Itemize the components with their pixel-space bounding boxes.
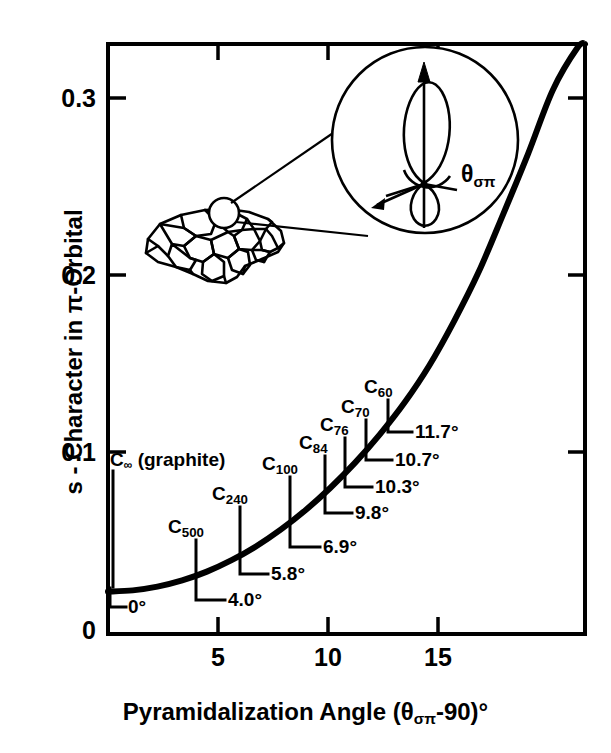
cage-facet-11: [228, 249, 250, 274]
c70-c: C: [341, 396, 355, 417]
y-axis-title-pre: s - Character in: [60, 313, 87, 494]
c500-subscript: 500: [182, 525, 204, 540]
xtick-label-15: 15: [408, 645, 468, 670]
ytick-label-0.3: 0.3: [28, 86, 96, 111]
angle-label-0deg: 0°: [128, 597, 146, 616]
theta-inset-subscript: σπ: [473, 173, 495, 190]
c60-subscript: 60: [378, 385, 393, 400]
y-axis-title-post: -Orbital: [60, 209, 87, 294]
angle-label-9.8deg: 9.8°: [355, 503, 389, 522]
label-c60: C60: [364, 377, 393, 399]
label-c70: C70: [341, 397, 370, 419]
xtick-label-5: 5: [188, 645, 248, 670]
pi-orbital-inset: [332, 47, 518, 233]
theta-inset-symbol: θ: [461, 161, 473, 187]
angle-label-10.7deg: 10.7°: [395, 450, 440, 469]
label-c100: C100: [262, 454, 298, 476]
ytick-label-0: 0: [28, 618, 96, 643]
carbon-center-dot: [421, 181, 428, 188]
graphite-rest: (graphite): [132, 449, 225, 470]
c76-subscript: 76: [334, 423, 349, 438]
graphite-c: C: [110, 449, 124, 470]
c60-c: C: [364, 376, 378, 397]
angle-label-6.9deg: 6.9°: [323, 537, 357, 556]
angle-label-5.8deg: 5.8°: [271, 564, 305, 583]
theta-sigma-pi-label: θσπ: [461, 163, 495, 189]
angle-label-4.0deg: 4.0°: [228, 590, 262, 609]
y-axis-title-pi: π: [60, 295, 87, 313]
c76-c: C: [320, 414, 334, 435]
c84-subscript: 84: [313, 441, 328, 456]
label-c-infinity-graphite: C∞ (graphite): [110, 450, 225, 472]
cage-facet-4: [160, 224, 196, 246]
xtick-label-10: 10: [298, 645, 358, 670]
c70-subscript: 70: [355, 405, 370, 420]
c100-subscript: 100: [276, 462, 298, 477]
cage-facet-10: [202, 254, 224, 281]
label-c240: C240: [212, 484, 248, 506]
c500-c: C: [168, 516, 182, 537]
label-c500: C500: [168, 517, 204, 539]
highlighted-carbon-atom: [209, 198, 239, 228]
fullerene-cage-illustration: [146, 198, 284, 283]
y-axis-title: s - Character in π-Orbital: [62, 142, 86, 562]
x-axis-title-post: -90)°: [436, 698, 488, 725]
leader-c84: [325, 456, 352, 513]
c240-c: C: [212, 483, 226, 504]
c84-c: C: [299, 432, 313, 453]
x-axis-title: Pyramidalization Angle (θσπ-90)°: [0, 700, 611, 727]
angle-label-11.7deg: 11.7°: [415, 422, 459, 441]
cage-facet-8: [260, 229, 278, 252]
x-axis-title-theta-subscript: σπ: [414, 710, 436, 727]
chart-figure: 0.3 0.2 0.1 0 5 10 15 s - Character in π…: [0, 0, 611, 753]
cage-facet-7: [234, 229, 260, 250]
x-axis-title-theta: θ: [401, 698, 414, 725]
angle-label-10.3deg: 10.3°: [375, 477, 420, 496]
c100-c: C: [262, 453, 276, 474]
cage-edge-7: [262, 259, 264, 262]
x-axis-title-pre: Pyramidalization Angle (: [123, 698, 401, 725]
magnifier-line-upper: [231, 131, 336, 203]
cage-facet-12: [252, 250, 270, 262]
c240-subscript: 240: [226, 492, 248, 507]
